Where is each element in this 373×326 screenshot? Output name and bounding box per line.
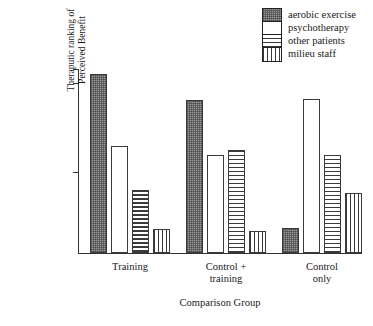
bar-aerobic-exercise-Control-+-training — [186, 100, 203, 253]
legend-label-milieu-staff: milieu staff — [288, 47, 356, 60]
legend-label-aerobic-exercise: aerobic exercise — [288, 8, 356, 21]
bar-milieu-staff-Control-+-training — [249, 231, 266, 253]
chart-legend: aerobic exercise psychotherapy other pat… — [262, 8, 356, 62]
legend-swatch-aerobic-exercise — [263, 9, 281, 22]
plot-area: TrainingControl + trainingControl only C… — [78, 69, 362, 253]
bar-psychotherapy-Control-+-training — [207, 155, 224, 253]
bar-other-patients-Training — [132, 190, 149, 253]
bar-psychotherapy-Control-only — [303, 99, 320, 253]
legend-swatch-psychotherapy — [263, 22, 281, 35]
x-axis-category-label-0: Training — [85, 261, 175, 273]
bar-milieu-staff-Control-only — [345, 193, 362, 253]
legend-label-psychotherapy: psychotherapy — [288, 21, 356, 34]
x-axis-category-label-2: Control only — [277, 261, 367, 285]
x-axis-category-label-1: Control + training — [181, 261, 271, 285]
legend-swatch-other-patients — [263, 35, 281, 48]
legend-label-other-patients: other patients — [288, 34, 356, 47]
x-axis-line — [78, 253, 362, 254]
legend-swatch-column — [262, 8, 282, 62]
y-axis-tick-2 — [73, 172, 79, 173]
bar-milieu-staff-Training — [153, 229, 170, 253]
bar-other-patients-Control-+-training — [228, 150, 245, 253]
legend-swatch-milieu-staff — [263, 48, 281, 61]
y-axis-title: Theraputic ranking of Perceived Benefit — [66, 0, 88, 125]
bar-psychotherapy-Training — [111, 146, 128, 253]
bar-aerobic-exercise-Control-only — [282, 228, 299, 253]
bar-other-patients-Control-only — [324, 155, 341, 253]
bar-aerobic-exercise-Training — [90, 74, 107, 253]
legend-label-column: aerobic exercise psychotherapy other pat… — [288, 8, 356, 60]
x-axis-title: Comparison Group — [78, 297, 362, 308]
bar-chart: aerobic exercise psychotherapy other pat… — [0, 0, 373, 326]
